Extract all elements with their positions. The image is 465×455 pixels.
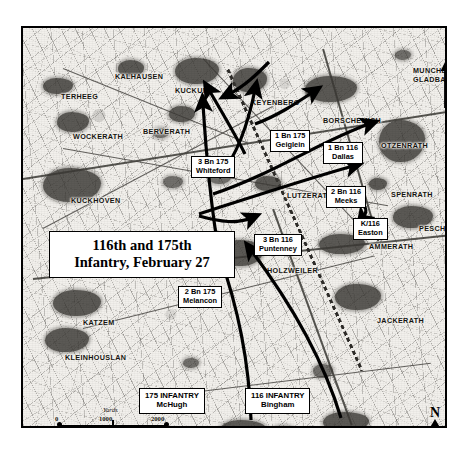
place-label: AMMERATH (369, 242, 413, 251)
unit-commander: Puntenney (259, 245, 297, 254)
unit-commander: Whiteford (196, 167, 230, 176)
place-label: KEYENBERG (251, 98, 300, 107)
unit-callout-meeks: 2 Bn 116Meeks (326, 186, 366, 208)
unit-callout-mchugh: 175 INFANTRYMcHugh (139, 388, 205, 414)
unit-callout-whiteford: 3 Bn 175Whiteford (191, 156, 235, 178)
scale-endpoint-dot (164, 422, 169, 427)
unit-commander: Geiglein (275, 141, 305, 150)
unit-callout-easton: K/116Easton (353, 218, 388, 240)
map-title-line1: 116th and 175th (54, 237, 230, 254)
scale-tick-0-label: 0 (55, 415, 58, 422)
unit-callout-bingham: 116 INFANTRYBingham (245, 388, 310, 414)
unit-commander: McHugh (145, 400, 199, 409)
place-label: KLEINHOUSLAN (65, 353, 126, 362)
place-label: PESCH (419, 224, 446, 233)
place-label: TERHEEG (61, 92, 98, 101)
north-label: N (427, 406, 443, 419)
map-title-block: 116th and 175th Infantry, February 27 (49, 231, 235, 278)
place-label: WOCKERATH (73, 132, 123, 141)
unit-commander: Dallas (328, 153, 358, 162)
place-label: JACKERATH (377, 316, 424, 325)
north-arrow-icon (427, 419, 443, 428)
unit-commander: Melancon (183, 297, 217, 306)
scale-midpoint-tick (112, 420, 114, 428)
unit-designation: 175 INFANTRY (145, 391, 199, 400)
unit-callout-geiglein: 1 Bn 175Geiglein (270, 130, 310, 152)
scale-tick-1000-label: 1000 (99, 415, 112, 422)
unit-designation: 116 INFANTRY (251, 391, 304, 400)
scale-tick-2000-label: 2000 (151, 415, 164, 422)
map-title-line2: Infantry, February 27 (54, 254, 230, 271)
place-label: KALHAUSEN (115, 72, 163, 81)
map-figure: KALHAUSENKUCKUMKEYENBERGBORSCHEMICHMUNCH… (0, 0, 465, 455)
muenchen-gladbach-road-arrow-icon (440, 62, 447, 108)
settlement-area (269, 426, 299, 428)
unit-commander: Bingham (251, 400, 304, 409)
place-label: BORSCHEMICH (323, 116, 381, 125)
map-frame: KALHAUSENKUCKUMKEYENBERGBORSCHEMICHMUNCH… (21, 26, 447, 428)
place-label: SPENRATH (391, 190, 433, 199)
unit-commander: Easton (358, 229, 383, 238)
place-label: KATZEM (83, 318, 115, 327)
scale-endpoint-dot (57, 422, 62, 427)
unit-commander: Meeks (331, 197, 361, 206)
north-arrow: N (427, 406, 443, 428)
place-label: KUCKUM (175, 86, 209, 95)
place-label: OTZENRATH (381, 141, 428, 150)
place-label: KUCKHOVEN (71, 196, 120, 205)
unit-callout-melancon: 2 Bn 175Melancon (178, 286, 222, 308)
place-label: HOLZWEILER (267, 266, 318, 275)
place-label: BERVERATH (143, 127, 190, 136)
unit-callout-dallas: 1 Bn 116Dallas (323, 142, 363, 164)
scale-units-label: Yards (103, 406, 118, 413)
unit-callout-puntenney: 3 Bn 116Puntenney (254, 234, 302, 256)
